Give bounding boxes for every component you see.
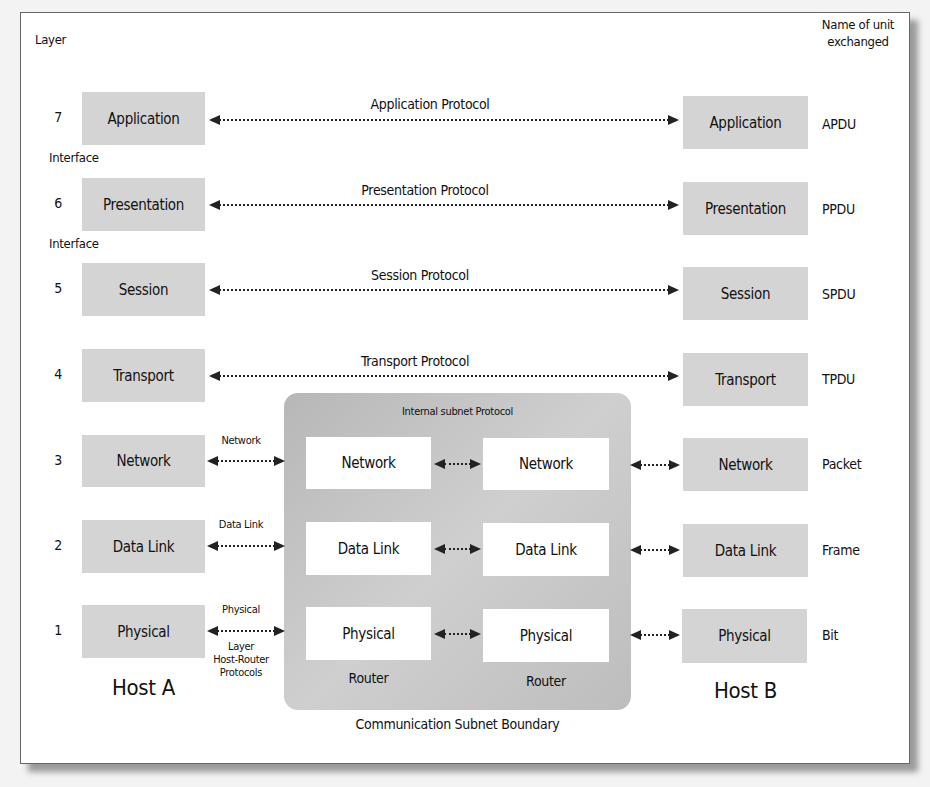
host-a-application: Application: [82, 92, 205, 145]
arrowhead-right-icon: [470, 459, 481, 469]
host-a-session: Session: [82, 263, 205, 316]
router-host-b-data-link-arrow: [630, 545, 680, 555]
arrowhead-right-icon: [669, 460, 680, 470]
arrowhead-right-icon: [274, 626, 285, 636]
arrowhead-right-icon: [668, 115, 679, 125]
arrowhead-right-icon: [669, 545, 680, 555]
application-protocol-arrow: [209, 115, 679, 125]
unit-bit: Bit: [822, 627, 838, 643]
arrowhead-right-icon: [668, 285, 679, 295]
host-a-data-link: Data Link: [82, 520, 205, 573]
host-a-transport: Transport: [82, 349, 205, 402]
interface-label-6-5: Interface: [49, 236, 99, 251]
host-b-label: Host B: [683, 678, 808, 703]
unit-frame: Frame: [822, 542, 860, 558]
router-router-data-link-arrow: [434, 544, 481, 554]
host-b-physical: Physical: [682, 609, 807, 663]
arrowhead-right-icon: [470, 629, 481, 639]
arrowhead-right-icon: [470, 544, 481, 554]
host-router-line1: Layer: [205, 640, 277, 653]
host-b-transport: Transport: [683, 353, 808, 406]
transport-protocol-label: Transport Protocol: [300, 353, 530, 369]
host-b-data-link: Data Link: [683, 524, 808, 577]
unit-spdu: SPDU: [822, 286, 855, 302]
unit-tpdu: TPDU: [822, 371, 855, 387]
host-a-physical: Physical: [82, 605, 205, 658]
host-router-line2: Host-Router: [205, 653, 277, 666]
arrowhead-right-icon: [669, 630, 680, 640]
router-host-b-network-arrow: [630, 460, 680, 470]
internal-subnet-protocol-label: Internal subnet Protocol: [284, 405, 631, 418]
host-a-label: Host A: [82, 675, 205, 700]
router-2-network: Network: [483, 438, 609, 490]
router-2-data-link: Data Link: [483, 523, 609, 576]
layer-number-4: 4: [48, 366, 68, 382]
router-1-network: Network: [306, 437, 431, 489]
session-protocol-label: Session Protocol: [305, 267, 535, 283]
host-a-network: Network: [82, 435, 205, 487]
unit-packet: Packet: [822, 456, 861, 472]
unit-name-header: Name of unit exchanged: [818, 16, 898, 50]
host-router-protocols-label: Layer Host-Router Protocols: [205, 640, 277, 679]
arrowhead-right-icon: [274, 456, 285, 466]
presentation-protocol-label: Presentation Protocol: [305, 182, 545, 198]
unit-apdu: APDU: [822, 116, 856, 132]
unit-ppdu: PPDU: [822, 201, 855, 217]
data-link-host-router-label: Data Link: [208, 518, 274, 531]
router-2-label: Router: [483, 673, 609, 689]
layer-number-5: 5: [48, 280, 68, 296]
session-protocol-arrow: [209, 285, 679, 295]
router-2-physical: Physical: [483, 609, 609, 662]
layer-number-1: 1: [48, 622, 68, 638]
communication-subnet-boundary-label: Communication Subnet Boundary: [284, 716, 631, 732]
layer-number-7: 7: [48, 109, 68, 125]
physical-host-router-arrow: [207, 626, 285, 636]
host-b-session: Session: [683, 267, 808, 320]
host-b-presentation: Presentation: [683, 182, 808, 235]
router-1-data-link: Data Link: [306, 522, 431, 575]
router-host-b-physical-arrow: [630, 630, 680, 640]
layer-number-3: 3: [48, 452, 68, 468]
interface-label-7-6: Interface: [49, 150, 99, 165]
host-a-presentation: Presentation: [82, 178, 205, 231]
network-host-router-arrow: [207, 456, 285, 466]
transport-protocol-arrow: [209, 371, 679, 381]
router-router-physical-arrow: [434, 629, 481, 639]
host-router-line3: Protocols: [205, 666, 277, 679]
application-protocol-label: Application Protocol: [310, 96, 550, 112]
layer-header: Layer: [35, 32, 66, 47]
arrowhead-right-icon: [668, 200, 679, 210]
layer-number-6: 6: [48, 195, 68, 211]
unit-name-header-line1: Name of unit: [818, 16, 898, 33]
arrowhead-right-icon: [274, 541, 285, 551]
router-1-label: Router: [306, 670, 431, 686]
data-link-host-router-arrow: [207, 541, 285, 551]
unit-name-header-line2: exchanged: [818, 33, 898, 50]
host-b-application: Application: [683, 96, 808, 149]
network-host-router-label: Network: [208, 434, 274, 447]
presentation-protocol-arrow: [209, 200, 679, 210]
host-b-network: Network: [683, 438, 808, 491]
arrowhead-right-icon: [668, 371, 679, 381]
router-1-physical: Physical: [306, 607, 431, 660]
router-router-network-arrow: [434, 459, 481, 469]
physical-host-router-label: Physical: [208, 603, 274, 616]
layer-number-2: 2: [48, 537, 68, 553]
